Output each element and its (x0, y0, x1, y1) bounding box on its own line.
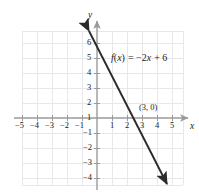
ytick-label-neg2: −2 (83, 143, 92, 152)
coordinate-plane (0, 0, 199, 196)
equation-rhs: = −2 (128, 52, 147, 63)
xtick-label-2: 2 (125, 121, 129, 130)
equation-variable-2: x (147, 52, 151, 63)
ytick-label-5: 5 (87, 53, 91, 62)
ytick-label-neg4: −4 (83, 173, 92, 182)
x-axis-label: x (190, 122, 194, 132)
graph-figure: −5 −4 −3 −2 −1 1 2 3 4 5 6 5 4 3 2 1 −1 … (0, 0, 199, 196)
function-equation-label: f(x)= −2x+ 6 (111, 53, 167, 63)
xtick-label-1: 1 (110, 121, 114, 130)
xtick-label-neg3: −3 (45, 121, 54, 130)
ytick-label-neg1: −1 (83, 128, 92, 137)
xtick-label-4: 4 (155, 121, 159, 130)
xtick-label-3: 3 (140, 121, 144, 130)
x-intercept-annotation: (3, 0) (139, 103, 157, 112)
y-axis-label: y (88, 11, 92, 21)
equation-tail: + 6 (154, 52, 167, 63)
ytick-label-4: 4 (87, 68, 91, 77)
ytick-label-neg3: −3 (83, 158, 92, 167)
xtick-label-5: 5 (170, 121, 174, 130)
equation-paren-close: ) (122, 52, 125, 63)
ytick-label-6: 6 (87, 38, 91, 47)
xtick-label-neg4: −4 (30, 121, 39, 130)
axes (14, 21, 188, 190)
xtick-label-neg2: −2 (60, 121, 69, 130)
ytick-label-3: 3 (87, 83, 91, 92)
ytick-label-1: 1 (87, 113, 91, 122)
xtick-label-neg5: −5 (15, 121, 24, 130)
ytick-label-2: 2 (87, 98, 91, 107)
